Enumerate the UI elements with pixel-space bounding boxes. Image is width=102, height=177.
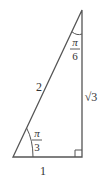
right-angle-marker (75, 150, 82, 157)
adjacent-side-label: 1 (40, 164, 46, 177)
top-angle-numerator: π (72, 36, 78, 48)
opposite-side-label: √3 (85, 90, 98, 104)
top-angle-arc (72, 32, 82, 35)
triangle-diagram: π 6 π 3 2 √3 1 (0, 0, 102, 177)
bottom-left-angle-denominator: 3 (34, 141, 40, 153)
hypotenuse-label: 2 (36, 80, 42, 94)
bottom-left-angle-arc (27, 128, 33, 157)
bottom-left-angle-numerator: π (34, 127, 40, 139)
top-angle-denominator: 6 (72, 50, 78, 62)
